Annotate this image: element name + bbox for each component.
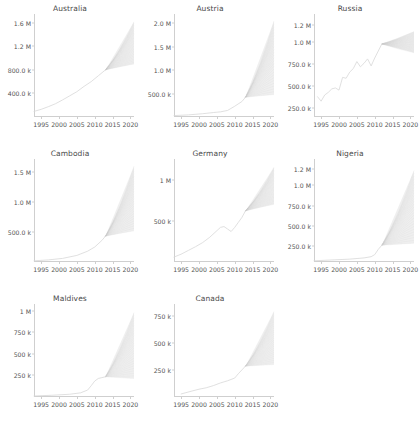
history-line <box>34 377 105 396</box>
y-tick-label: 250 k <box>14 372 31 379</box>
y-tick-label: 750 k <box>154 312 171 319</box>
x-tick-label: 1995 <box>313 266 329 273</box>
y-tick-label: 1.2 M <box>14 43 31 50</box>
x-tick-label: 2015 <box>105 266 121 273</box>
x-tick-label: 2010 <box>367 266 383 273</box>
x-tick-mark <box>181 262 182 264</box>
history-line <box>34 70 105 111</box>
x-tick-label: 2020 <box>263 266 279 273</box>
x-tick-mark <box>393 262 394 264</box>
x-tick-mark <box>339 117 340 119</box>
x-tick-label: 2010 <box>87 266 103 273</box>
x-tick-mark <box>235 262 236 264</box>
y-tick-label: 500.0 k <box>148 90 171 97</box>
x-tick-mark <box>217 117 218 119</box>
y-tick-label: 500 k <box>14 350 31 357</box>
panel-title: Australia <box>0 4 140 13</box>
y-tick-label: 800.0 k <box>8 66 31 73</box>
x-tick-label: 1995 <box>33 401 49 408</box>
plot-area: 500 k1 M199520002005201020152020 <box>174 159 274 262</box>
y-tick-label: 500 k <box>154 217 171 224</box>
y-tick-label: 1.0 M <box>154 67 171 74</box>
x-tick-mark <box>217 262 218 264</box>
x-tick-mark <box>375 117 376 119</box>
plot-area: 400.0 k800.0 k1.2 M1.6 M1995200020052010… <box>34 14 134 117</box>
y-tick-label: 1 M <box>20 307 31 314</box>
x-tick-label: 2015 <box>245 121 261 128</box>
x-tick-label: 1995 <box>33 266 49 273</box>
x-tick-label: 2020 <box>403 266 419 273</box>
x-tick-mark <box>357 262 358 264</box>
panel-title: Maldives <box>0 294 140 303</box>
x-tick-mark <box>59 397 60 399</box>
x-tick-mark <box>270 117 271 119</box>
history-line <box>318 44 382 101</box>
x-tick-label: 2000 <box>331 121 347 128</box>
x-tick-label: 2005 <box>69 266 85 273</box>
x-tick-label: 2000 <box>191 121 207 128</box>
x-tick-label: 2005 <box>209 121 225 128</box>
history-line <box>174 97 245 115</box>
y-tick-label: 500.0 k <box>8 229 31 236</box>
x-tick-mark <box>235 117 236 119</box>
x-tick-label: 2015 <box>105 121 121 128</box>
x-tick-label: 2015 <box>385 266 401 273</box>
x-tick-mark <box>130 262 131 264</box>
panel-maldives: Maldives250 k500 k750 k1 M19952000200520… <box>0 290 140 425</box>
panel-nigeria: Nigeria250.0 k500.0 k750.0 k1.0 M1.2 M19… <box>280 145 420 290</box>
series-plot <box>34 159 134 262</box>
x-tick-label: 2010 <box>87 121 103 128</box>
x-tick-label: 2010 <box>87 401 103 408</box>
x-tick-mark <box>95 262 96 264</box>
x-tick-label: 2005 <box>209 266 225 273</box>
x-tick-label: 2000 <box>51 401 67 408</box>
plot-area: 250 k500 k750 k199520002005201020152020 <box>174 304 274 397</box>
y-tick-label: 1.2 M <box>294 21 311 28</box>
x-tick-label: 1995 <box>33 121 49 128</box>
x-tick-mark <box>77 262 78 264</box>
plot-area: 250.0 k500.0 k750.0 k1.0 M1.2 M199520002… <box>314 159 414 262</box>
series-plot <box>174 14 274 117</box>
x-tick-mark <box>199 397 200 399</box>
x-tick-label: 2020 <box>123 266 139 273</box>
y-tick-label: 1 M <box>160 176 171 183</box>
x-tick-label: 2010 <box>227 266 243 273</box>
y-tick-label: 1.5 M <box>14 169 31 176</box>
y-tick-label: 500.0 k <box>288 83 311 90</box>
panel-title: Canada <box>140 294 280 303</box>
x-tick-mark <box>357 117 358 119</box>
y-tick-label: 1.0 M <box>294 39 311 46</box>
x-tick-mark <box>321 262 322 264</box>
x-tick-mark <box>321 117 322 119</box>
x-tick-mark <box>181 397 182 399</box>
panel-australia: Australia400.0 k800.0 k1.2 M1.6 M1995200… <box>0 0 140 145</box>
panel-title: Germany <box>140 149 280 158</box>
y-tick-label: 500 k <box>154 339 171 346</box>
x-tick-label: 2005 <box>69 121 85 128</box>
y-tick-label: 1.5 M <box>154 43 171 50</box>
x-tick-mark <box>199 262 200 264</box>
x-tick-label: 2000 <box>191 401 207 408</box>
panel-cambodia: Cambodia500.0 k1.0 M1.5 M199520002005201… <box>0 145 140 290</box>
x-tick-mark <box>59 262 60 264</box>
y-tick-label: 400.0 k <box>8 90 31 97</box>
x-tick-mark <box>410 262 411 264</box>
y-tick-label: 750.0 k <box>288 202 311 209</box>
x-tick-label: 2015 <box>245 401 261 408</box>
plot-area: 250.0 k500.0 k750.0 k1.0 M1.2 M199520002… <box>314 14 414 117</box>
y-tick-label: 1.6 M <box>14 19 31 26</box>
x-tick-mark <box>41 397 42 399</box>
y-tick-label: 1.0 M <box>14 199 31 206</box>
x-tick-label: 2005 <box>349 266 365 273</box>
panel-title: Nigeria <box>280 149 420 158</box>
x-tick-mark <box>95 397 96 399</box>
x-tick-label: 1995 <box>173 401 189 408</box>
x-tick-label: 2015 <box>105 401 121 408</box>
plot-area: 500.0 k1.0 M1.5 M19952000200520102015202… <box>34 159 134 262</box>
x-tick-mark <box>393 117 394 119</box>
panel-germany: Germany500 k1 M199520002005201020152020 <box>140 145 280 290</box>
x-tick-mark <box>410 117 411 119</box>
x-tick-mark <box>253 397 254 399</box>
history-line <box>34 236 105 261</box>
x-tick-label: 1995 <box>173 266 189 273</box>
